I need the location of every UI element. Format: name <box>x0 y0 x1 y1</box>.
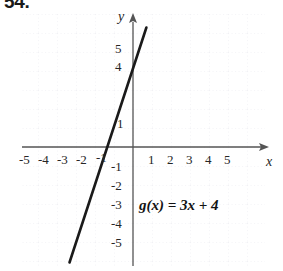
x-tick-label-3: 3 <box>186 153 193 166</box>
y-tick-label-neg3: -3 <box>111 198 122 211</box>
x-tick-label-neg3: -3 <box>57 153 68 166</box>
x-axis-name: x <box>266 155 272 169</box>
y-tick-label-5: 5 <box>115 42 122 55</box>
y-tick-label-neg2: -2 <box>111 179 122 192</box>
x-tick-label-2: 2 <box>167 153 174 166</box>
graph-figure <box>0 0 283 271</box>
y-tick-label-4: 4 <box>115 60 122 73</box>
x-tick-label-5: 5 <box>224 153 231 166</box>
grid-area <box>22 14 265 266</box>
x-tick-label-neg2: -2 <box>76 153 87 166</box>
x-tick-label-neg5: -5 <box>19 153 30 166</box>
x-tick-label-4: 4 <box>205 153 212 166</box>
coordinate-plane-svg <box>0 0 283 271</box>
y-tick-label-neg4: -4 <box>111 217 122 230</box>
y-axis-name: y <box>118 10 124 24</box>
x-tick-label-neg1: -1 <box>96 151 107 164</box>
x-tick-label-neg4: -4 <box>38 153 49 166</box>
y-tick-label-neg5: -5 <box>111 236 122 249</box>
y-tick-label-neg1: -1 <box>111 160 122 173</box>
x-tick-label-1: 1 <box>148 153 155 166</box>
y-tick-label-1: 1 <box>117 117 124 130</box>
function-equation-label: g(x) = 3x + 4 <box>139 198 219 213</box>
worksheet-page: 54. <box>0 0 283 271</box>
